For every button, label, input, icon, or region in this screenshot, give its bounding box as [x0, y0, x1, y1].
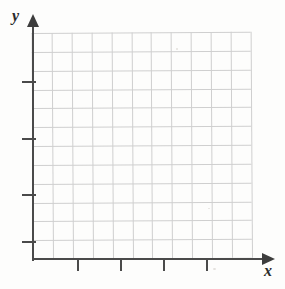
x-axis-tick — [206, 258, 208, 271]
grid-line-horizontal — [32, 88, 251, 90]
grid-line-horizontal — [32, 126, 251, 128]
x-axis-tick — [77, 258, 79, 271]
grid-line-horizontal — [32, 145, 251, 147]
x-axis-line — [32, 258, 264, 260]
scan-speckle — [208, 208, 210, 209]
x-axis-tick — [120, 258, 122, 271]
x-axis-tick — [163, 258, 165, 271]
y-axis-arrow-icon — [27, 14, 39, 27]
y-axis-label: y — [12, 8, 19, 24]
grid-line-horizontal — [33, 220, 252, 222]
x-axis-label: x — [264, 263, 272, 279]
grid-line-horizontal — [32, 163, 251, 165]
grid-line-horizontal — [33, 182, 252, 184]
grid-line-horizontal — [32, 69, 251, 71]
y-axis-line — [32, 24, 34, 261]
y-axis-tick — [22, 81, 36, 83]
grid-lines — [32, 32, 252, 259]
grid-line-horizontal — [32, 107, 251, 109]
grid-line-horizontal — [33, 239, 252, 241]
grid-line-horizontal — [32, 50, 251, 52]
grid-line-horizontal — [33, 201, 252, 203]
y-axis-tick — [22, 138, 36, 140]
coordinate-grid-figure: y x — [0, 0, 285, 289]
scan-speckle — [213, 268, 216, 270]
grid-area — [32, 32, 252, 259]
y-axis-tick — [22, 241, 36, 243]
y-axis-tick — [22, 194, 36, 196]
grid-line-horizontal — [32, 32, 251, 34]
scan-speckle — [176, 48, 178, 50]
